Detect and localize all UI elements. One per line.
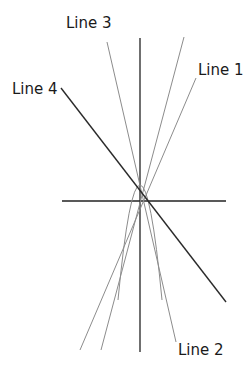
line-4 <box>61 88 226 302</box>
line-1 <box>80 78 196 350</box>
coordinate-diagram <box>0 0 252 373</box>
label-line-2: Line 2 <box>178 343 224 358</box>
label-line-1: Line 1 <box>198 63 244 78</box>
label-line-4: Line 4 <box>12 82 58 97</box>
label-line-3: Line 3 <box>66 16 112 31</box>
